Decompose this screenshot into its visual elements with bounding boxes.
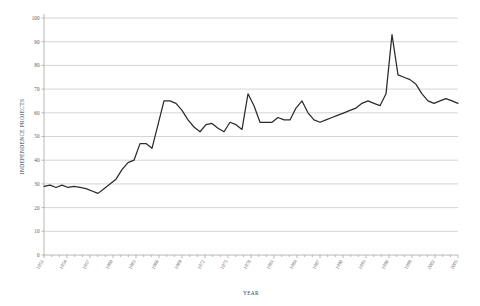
y-axis-tick-label: 100	[32, 15, 40, 21]
x-axis-tick-label: 1951	[36, 259, 46, 271]
x-axis-tick-label: 1993	[358, 259, 368, 271]
x-axis-tick-label: 1984	[289, 259, 299, 271]
x-axis-tick-label: 1969	[174, 259, 184, 271]
y-axis-tick-label: 60	[34, 110, 40, 116]
x-axis-tick-label: 1966	[151, 259, 161, 271]
y-axis-tick-label: 40	[34, 157, 40, 163]
x-axis-tick-labels-group: 1951195419571960196319661969197219751978…	[36, 259, 460, 271]
x-axis-tick-label: 1957	[82, 259, 92, 271]
x-axis-tick-label: 1954	[59, 259, 69, 271]
y-axis-tick-label: 0	[37, 252, 40, 258]
x-axis-tick-label: 1981	[266, 259, 276, 271]
x-axis-tick-label: 1975	[220, 259, 230, 271]
y-axis-tick-label: 20	[34, 205, 40, 211]
y-axis-tick-label: 30	[34, 181, 40, 187]
x-axis-tick-label: 1987	[312, 259, 322, 271]
y-axis-tick-label: 70	[34, 86, 40, 92]
x-axis-tick-label: 1963	[128, 259, 138, 271]
x-axis-tick-label: 1972	[197, 259, 207, 271]
y-axis-tick-label: 90	[34, 39, 40, 45]
x-axis-tick-label: 2005	[450, 259, 460, 271]
x-axis-tick-label: 1960	[105, 259, 115, 271]
y-axis-ticks-group: 0102030405060708090100	[32, 15, 44, 258]
x-axis-ticks-group	[44, 255, 458, 258]
gridlines-group	[44, 18, 458, 231]
chart-container: 0102030405060708090100 19511954195719601…	[0, 0, 480, 306]
y-axis-tick-label: 50	[34, 133, 40, 139]
x-axis-tick-label: 1996	[381, 259, 391, 271]
y-axis-tick-label: 80	[34, 62, 40, 68]
x-axis-tick-label: 1978	[243, 259, 253, 271]
line-chart: 0102030405060708090100 19511954195719601…	[0, 0, 480, 306]
x-axis-tick-label: 1990	[335, 259, 345, 271]
x-axis-title: YEAR	[243, 290, 259, 296]
y-axis-title: INDEPENDENCE PROJECTS	[19, 99, 25, 175]
x-axis-tick-label: 1999	[404, 259, 414, 271]
x-axis-tick-label: 2002	[427, 259, 437, 271]
y-axis-tick-label: 10	[34, 228, 40, 234]
data-series-line	[44, 35, 458, 194]
